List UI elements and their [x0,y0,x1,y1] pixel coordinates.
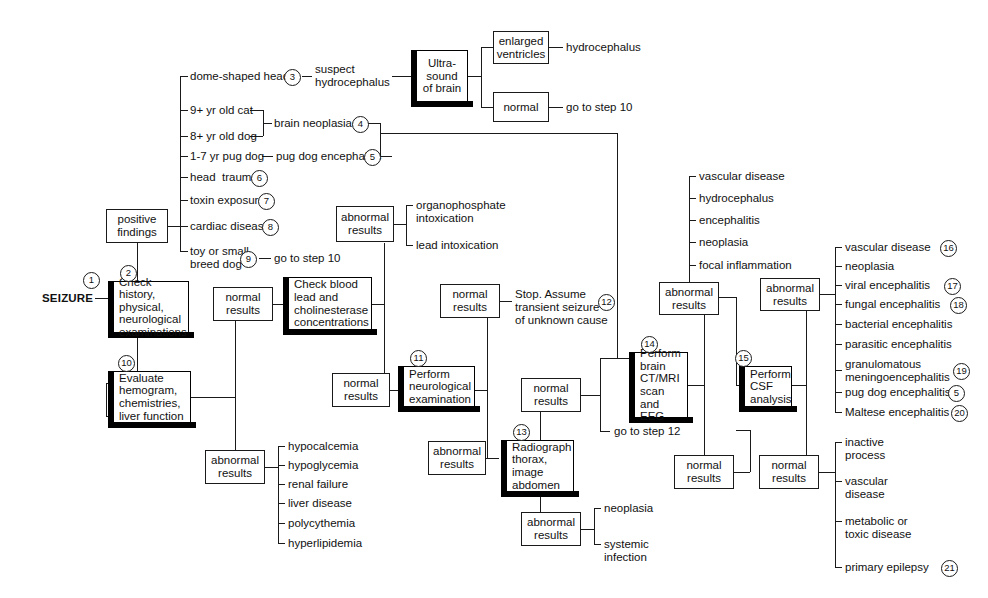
trunk-positive-findings [180,76,181,251]
tick-toy-small-breed [180,251,188,252]
connector-toxabnormal-out [394,224,406,225]
connector-to-us-normal [481,107,493,108]
connector-ctabnormal-out [719,297,736,298]
leaf-suspect-hydrocephalus: suspect hydrocephalus [315,63,390,89]
tick-polycythemia [278,523,285,524]
trunk-neuro-results [487,318,488,458]
connector-ultrasound-split [481,47,482,107]
tick-csf-neoplasia [835,266,842,267]
connector-to-enlarged-ventricles [481,47,493,48]
connector-neuronormal-to-stop [500,301,512,302]
trunk-tox-abnormal-leaves [406,205,407,245]
trunk-chem-abnormal-leaves [278,446,279,543]
box-enlarged-ventricles[interactable]: enlarged ventricles [493,31,549,64]
tick-renal-failure [278,484,285,485]
trunk-hemogram-results [235,320,236,450]
leaf-final-vascular-disease: vascular disease [845,475,888,500]
box-ct-abnormal-results[interactable]: abnormal results [659,282,719,315]
leaf-go-to-step-12: go to step 12 [614,425,681,438]
leaf-renal-failure: renal failure [288,478,348,491]
box-csf-abnormal-results[interactable]: abnormal results [760,278,820,311]
tick-csf-parasitic [835,344,842,345]
tick-ct-focal-inflammation [689,265,696,266]
step-number-20: 20 [951,405,968,422]
tick-cat-9yr [180,110,188,111]
box-check-history[interactable]: Check history, physical, neurological ex… [113,281,189,333]
box-check-blood-lead[interactable]: Check blood lead and cholinesterase conc… [288,277,372,330]
leaf-ct-encephalitis: encephalitis [699,214,760,227]
step-number-7: 7 [258,193,275,210]
connector-4-right [368,123,380,124]
box-positive-findings[interactable]: positive findings [106,209,168,243]
box-tox-abnormal-results[interactable]: abnormal results [336,206,394,242]
connector-csfnormal-out [819,472,835,473]
box-csf-normal-results[interactable]: normal results [759,455,819,489]
tick-neoplasia-rad [594,508,601,509]
box-chem-abnormal-results[interactable]: abnormal results [205,450,265,484]
leaf-csf-maltese-encephalitis: Maltese encephalitis [845,406,949,419]
connector-radnormal-out [581,395,600,396]
tick-liver-disease [278,503,285,504]
tick-hyperlipidemia [278,543,285,544]
box-perform-ct-mri[interactable]: Perform brain CT/MRI scan and EEG [634,352,688,418]
leaf-hypocalcemia: hypocalcemia [288,440,358,453]
tick-ct-encephalitis [689,220,696,221]
tick-csf-granulomatous [835,370,842,371]
box-evaluate-hemogram[interactable]: Evaluate hemogram, chemistries, liver fu… [113,371,191,423]
step-number-19: 19 [953,363,970,380]
box-neuro-abnormal-results[interactable]: abnormal results [428,441,486,475]
box-ct-normal-results[interactable]: normal results [674,455,734,489]
connector-ctabnormal-down-to-csf [736,297,737,385]
tick-csf-fungal [835,304,842,305]
step-number-10: 10 [118,355,135,372]
connector-ctnormal-out [734,472,750,473]
trunk-ct-results [704,315,705,455]
connector-ct-out [688,385,704,386]
tick-csf-viral [835,285,842,286]
step-number-3: 3 [284,69,301,86]
box-ultrasound-normal[interactable]: normal [493,92,549,122]
box-radiograph-thorax[interactable]: Radiograph thorax, image abdomen [506,440,574,492]
box-neuro-normal-results[interactable]: normal results [440,284,500,318]
leaf-go-to-step-10-a: go to step 10 [274,252,341,265]
connector-neuro-out [475,390,487,391]
leaf-csf-viral-encephalitis: viral encephalitis [845,279,930,292]
connector-usnormal-to-step10 [549,107,563,108]
connector-long-vertical-to-ct [617,133,618,358]
tick-final-vascular-disease [835,481,842,482]
step-number-13: 13 [513,424,530,441]
connector-ultrasound-out [468,76,481,77]
leaf-toxin-exposure: toxin exposure [190,194,265,207]
tick-hypoglycemia [278,465,285,466]
box-rad-normal-results[interactable]: normal results [521,378,581,412]
tick-organophosphate [406,205,413,206]
box-rad-abnormal-results[interactable]: abnormal results [521,512,581,546]
connector-ctnormal-join [736,430,750,431]
tick-csf-maltese [835,412,842,413]
box-perform-neurological[interactable]: Perform neurological examination [403,366,475,407]
tick-ct-vascular-disease [689,176,696,177]
trunk-radnormal-to-ct [600,358,601,431]
leaf-pug-dog-1-7: 1-7 yr pug dog [190,150,264,163]
leaf-dog-8yr: 8+ yr old dog [190,130,257,143]
connector-csf-out [792,385,806,386]
box-perform-csf-analysis[interactable]: Perform CSF analysis [744,366,792,407]
leaf-liver-disease: liver disease [288,497,352,510]
step-number-18: 18 [950,297,967,314]
leaf-head-trauma: head trauma [190,171,258,184]
connector-9-to-step10 [259,258,271,259]
box-tox-normal-results[interactable]: normal results [332,373,390,407]
leaf-hyperlipidemia: hyperlipidemia [288,537,362,550]
box-ultrasound-of-brain[interactable]: Ultra- sound of brain [416,50,468,102]
step-number-16: 16 [940,240,957,257]
leaf-ct-vascular-disease: vascular disease [699,170,785,183]
tick-systemic-infection [594,544,601,545]
trunk-csf-results [806,310,807,455]
box-chem-normal-results[interactable]: normal results [213,287,273,321]
leaf-polycythemia: polycythemia [288,517,355,530]
tick-csf-bacterial [835,324,842,325]
leaf-ct-neoplasia: neoplasia [699,236,748,249]
connector-blood-out [372,304,384,305]
flowchart-canvas: SEIZURE 1 2 Check history, physical, neu… [0,0,988,598]
leaf-hydrocephalus-ultrasound: hydrocephalus [566,41,641,54]
